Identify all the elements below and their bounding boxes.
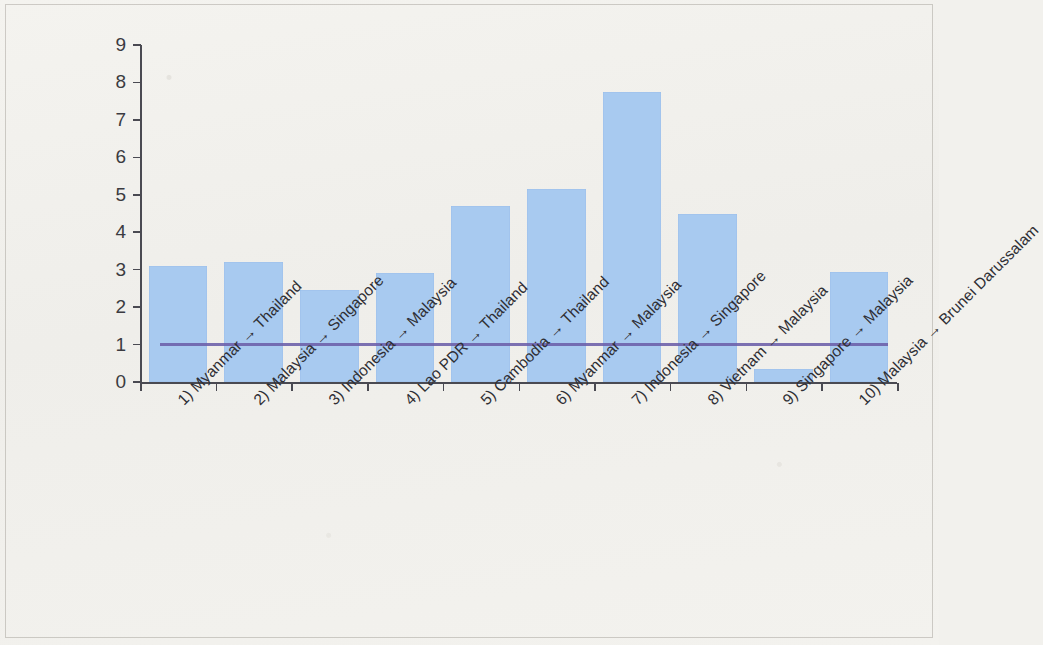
x-axis-tick [519, 383, 521, 391]
x-axis-tick [594, 383, 596, 391]
y-axis-tick [133, 119, 141, 121]
y-axis-tick [133, 269, 141, 271]
x-axis-tick [140, 383, 142, 391]
x-axis-tick [897, 383, 899, 391]
y-axis-tick-label: 2 [100, 297, 126, 316]
y-axis-tick-label: 3 [100, 260, 126, 279]
x-axis-tick [367, 383, 369, 391]
y-axis-tick-label: 1 [100, 335, 126, 354]
bar [149, 266, 208, 382]
x-axis-tick [670, 383, 672, 391]
y-axis-tick-label: 0 [100, 372, 126, 391]
y-axis-tick-label: 6 [100, 147, 126, 166]
y-axis-tick [133, 82, 141, 84]
y-axis-tick-label: 7 [100, 110, 126, 129]
y-axis-tick-label: 4 [100, 222, 126, 241]
y-axis-tick-label: 5 [100, 185, 126, 204]
y-axis-tick [133, 344, 141, 346]
y-axis-tick [133, 194, 141, 196]
y-axis-tick-label: 8 [100, 72, 126, 91]
x-axis-tick [216, 383, 218, 391]
y-axis-tick [133, 231, 141, 233]
x-axis-tick [443, 383, 445, 391]
y-axis-line [140, 45, 142, 383]
y-axis-tick [133, 306, 141, 308]
y-axis-tick-label: 9 [100, 35, 126, 54]
y-axis-tick [133, 157, 141, 159]
y-axis-tick [133, 44, 141, 46]
x-axis-tick [746, 383, 748, 391]
x-axis-tick [821, 383, 823, 391]
x-axis-tick [291, 383, 293, 391]
